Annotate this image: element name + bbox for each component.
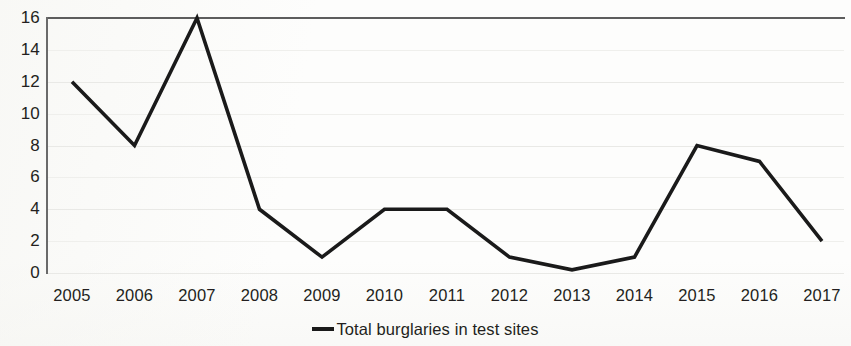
x-axis-label-2006: 2006 <box>116 285 154 305</box>
line-chart: 0246810121416 20052006200720082009201020… <box>0 0 851 346</box>
y-axis-label-12: 12 <box>2 73 40 90</box>
legend-line-marker-icon <box>312 327 334 331</box>
x-axis-label-2015: 2015 <box>678 285 716 305</box>
x-axis-label-2005: 2005 <box>53 285 91 305</box>
series-total-burglaries-in-test-sites <box>47 18 844 273</box>
y-axis-tick-labels: 0246810121416 <box>0 0 40 346</box>
data-polyline <box>72 18 822 270</box>
y-axis-label-0: 0 <box>2 264 40 281</box>
y-axis-label-14: 14 <box>2 41 40 58</box>
x-axis-label-2008: 2008 <box>241 285 279 305</box>
x-axis-label-2009: 2009 <box>303 285 341 305</box>
y-axis-label-2: 2 <box>2 232 40 249</box>
x-axis-label-2007: 2007 <box>178 285 216 305</box>
x-axis-label-2017: 2017 <box>803 285 841 305</box>
x-axis-label-2010: 2010 <box>366 285 404 305</box>
plot-area <box>47 18 844 273</box>
y-axis-label-8: 8 <box>2 137 40 154</box>
x-axis-tick-labels: 2005200620072008200920102011201220132014… <box>47 285 844 309</box>
legend-label: Total burglaries in test sites <box>336 319 538 339</box>
x-axis-label-2016: 2016 <box>741 285 779 305</box>
y-axis-label-6: 6 <box>2 168 40 185</box>
x-axis-label-2013: 2013 <box>553 285 591 305</box>
x-axis-label-2014: 2014 <box>616 285 654 305</box>
y-axis-label-16: 16 <box>2 9 40 26</box>
chart-legend: Total burglaries in test sites <box>0 319 851 339</box>
y-axis-label-4: 4 <box>2 200 40 217</box>
gridline-0 <box>47 273 844 274</box>
y-axis-label-10: 10 <box>2 105 40 122</box>
x-axis-label-2012: 2012 <box>491 285 529 305</box>
x-axis-label-2011: 2011 <box>429 285 465 305</box>
